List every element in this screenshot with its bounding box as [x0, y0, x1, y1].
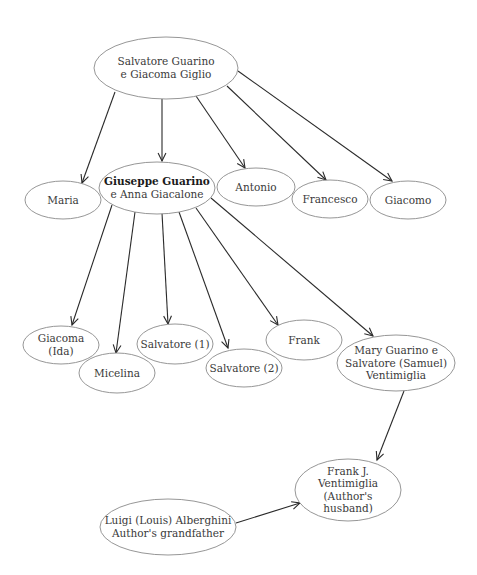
node-label-line: husband) [323, 502, 372, 514]
edge-line [162, 213, 168, 324]
edge-giuseppe_anna-to-mary_salvatore [211, 198, 373, 336]
node-label-line: e Anna Giacalone [110, 188, 203, 200]
node-label-line: Antonio [234, 181, 276, 193]
node-label-line: Salvatore Guarino [118, 55, 215, 67]
node-label-line: Francesco [302, 193, 357, 205]
node-salvatore-giacoma: Salvatore Guarinoe Giacoma Giglio [94, 37, 238, 99]
node-label-line: Frank J. [327, 465, 369, 477]
node-label-line: Ventimiglia [317, 477, 378, 489]
edge-line [116, 212, 135, 353]
node-label-line: Giacomo [385, 194, 432, 206]
edge-line [238, 71, 392, 181]
edges-layer [71, 71, 404, 523]
edge-line [82, 92, 115, 183]
edge-giuseppe_anna-to-giacoma_ida [71, 205, 112, 325]
family-tree-diagram: Salvatore Guarinoe Giacoma GiglioMariaGi… [0, 0, 477, 575]
node-label-line: (Ida) [48, 345, 73, 357]
node-label-line: Salvatore (Samuel) [345, 357, 447, 369]
edge-salvatore_giacoma-to-antonio [196, 96, 245, 168]
edge-line [196, 96, 245, 168]
edge-salvatore_giacoma-to-giuseppe_anna [158, 99, 166, 161]
node-frank: Frank [266, 320, 342, 360]
edge-luigi-to-frank_j [236, 502, 300, 523]
node-micelina: Micelina [79, 353, 155, 393]
node-label-line: (Author's [323, 490, 372, 502]
node-mary-salvatore: Mary Guarino eSalvatore (Samuel)Ventimig… [337, 335, 455, 391]
node-antonio: Antonio [217, 168, 295, 206]
edge-giuseppe_anna-to-salvatore_1 [162, 213, 171, 324]
edge-salvatore_giacoma-to-maria [81, 92, 115, 183]
edge-line [196, 208, 278, 325]
node-label-line: Author's grandfather [111, 527, 225, 539]
node-giacoma-ida: Giacoma(Ida) [23, 326, 99, 364]
node-label-line: Ventimiglia [365, 369, 426, 381]
edge-line [72, 205, 112, 325]
node-label-line: Mary Guarino e [354, 344, 438, 356]
node-label-line: Salvatore (2) [210, 362, 279, 374]
node-label-line: Salvatore (1) [141, 338, 210, 350]
node-salvatore-1: Salvatore (1) [137, 324, 213, 364]
node-label-line: Giacoma [38, 332, 84, 344]
node-giuseppe-anna: Giuseppe Guarinoe Anna Giacalone [99, 162, 215, 214]
node-label-line: e Giacoma Giglio [121, 68, 212, 80]
edge-salvatore_giacoma-to-giacomo [238, 71, 392, 181]
node-label-line: Frank [288, 334, 320, 346]
edge-mary_salvatore-to-frank_j [376, 391, 404, 460]
node-frank-j: Frank J.Ventimiglia(Author'shusband) [295, 459, 401, 521]
node-giacomo: Giacomo [370, 181, 446, 219]
edge-giuseppe_anna-to-micelina [113, 212, 135, 353]
edge-line [377, 391, 404, 460]
node-maria: Maria [25, 181, 101, 219]
nodes-layer: Salvatore Guarinoe Giacoma GiglioMariaGi… [23, 37, 455, 555]
edge-line [236, 503, 300, 523]
node-label-line: Giuseppe Guarino [104, 175, 210, 187]
node-label-line: Luigi (Louis) Alberghini [105, 514, 232, 526]
edge-giuseppe_anna-to-frank [196, 208, 278, 325]
node-luigi: Luigi (Louis) AlberghiniAuthor's grandfa… [100, 499, 236, 555]
node-label-line: Maria [47, 194, 79, 206]
node-salvatore-2: Salvatore (2) [206, 349, 282, 387]
node-francesco: Francesco [292, 180, 368, 218]
node-label-line: Micelina [94, 367, 140, 379]
edge-line [211, 198, 373, 336]
